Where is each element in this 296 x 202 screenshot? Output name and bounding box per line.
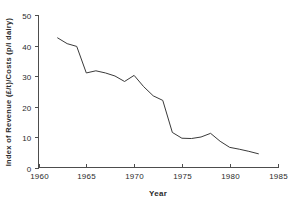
- x-tick-label-1960: 1960: [30, 172, 49, 181]
- y-tick-label-30: 30: [22, 73, 32, 82]
- x-axis-title: Year: [149, 189, 167, 198]
- y-tick-label-20: 20: [22, 104, 32, 113]
- axes-group: [39, 15, 278, 168]
- y-tick-label-50: 50: [22, 12, 32, 21]
- y-tick-label-40: 40: [22, 43, 32, 52]
- y-axis-ticks: [35, 16, 39, 169]
- x-tick-label-1970: 1970: [125, 172, 144, 181]
- x-axis-tick-labels: 196019651970197519801985: [30, 172, 288, 181]
- chart-container: 01020304050 196019651970197519801985 Yea…: [0, 0, 296, 202]
- data-series-line: [58, 38, 259, 154]
- y-axis-title: Index of Revenue (£/t)/Costs (p/l dairy): [4, 17, 13, 166]
- y-tick-label-10: 10: [22, 134, 32, 143]
- y-axis-tick-labels: 01020304050: [22, 12, 32, 174]
- x-tick-label-1965: 1965: [77, 172, 96, 181]
- x-tick-label-1985: 1985: [269, 172, 288, 181]
- line-chart: 01020304050 196019651970197519801985 Yea…: [0, 0, 296, 202]
- x-axis-ticks: [40, 164, 279, 168]
- x-tick-label-1980: 1980: [221, 172, 240, 181]
- x-tick-label-1975: 1975: [173, 172, 192, 181]
